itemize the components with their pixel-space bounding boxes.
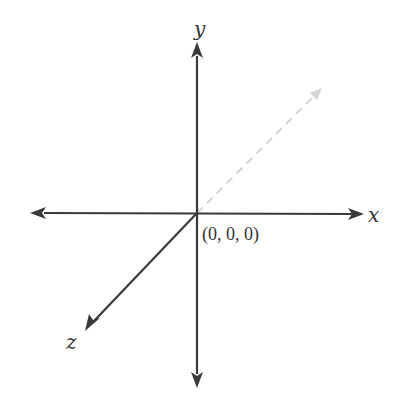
x-axis-label: x bbox=[368, 203, 379, 227]
y-axis-label: y bbox=[193, 17, 206, 41]
y-axis-positive-arrow-icon bbox=[191, 42, 203, 58]
z-axis bbox=[85, 213, 197, 331]
x-axis-negative-arrow-icon bbox=[30, 207, 46, 219]
coordinate-axes-diagram: y x z (0, 0, 0) bbox=[0, 0, 407, 401]
origin-label: (0, 0, 0) bbox=[202, 224, 259, 245]
y-axis-negative-arrow-icon bbox=[191, 372, 203, 388]
dashed-arrow-icon bbox=[310, 88, 322, 100]
y-axis bbox=[191, 42, 203, 388]
z-axis-label: z bbox=[65, 330, 77, 354]
dashed-axis bbox=[197, 88, 322, 213]
